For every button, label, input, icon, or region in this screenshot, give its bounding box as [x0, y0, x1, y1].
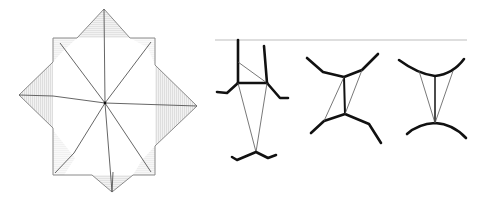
diagram-canvas — [0, 0, 483, 201]
linkage-figure-2 — [307, 54, 381, 143]
star-hatched-flaps — [19, 9, 197, 192]
linkage-figure-1 — [217, 40, 288, 160]
linkage-figure-3 — [399, 59, 466, 138]
folded-star — [19, 9, 197, 192]
star-center-point — [104, 102, 107, 105]
